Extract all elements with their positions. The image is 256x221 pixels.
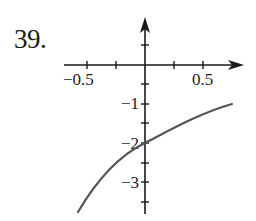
function-curve [78, 104, 232, 212]
y-tick-label-neg-three: −3 [121, 173, 139, 192]
figure: 39. −0.5 0.5 −1 −2 −3 [0, 0, 256, 221]
x-tick-label-neg-half: −0.5 [63, 70, 94, 89]
y-tick-label-neg-two: −2 [121, 134, 139, 153]
x-tick-label-pos-half: 0.5 [192, 70, 213, 89]
graph: −0.5 0.5 −1 −2 −3 [0, 0, 256, 221]
y-tick-label-neg-one: −1 [121, 94, 139, 113]
